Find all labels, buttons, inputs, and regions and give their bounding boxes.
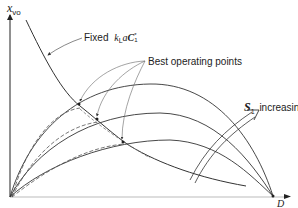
best-operating-points-label: Best operating points bbox=[148, 57, 242, 67]
fixed-leader-line bbox=[48, 38, 82, 55]
fixed-C: C bbox=[128, 32, 135, 43]
fixed-prefix: Fixed bbox=[84, 32, 108, 43]
s-text: increasing bbox=[259, 102, 298, 113]
dashed-mid bbox=[12, 122, 98, 197]
s-main: S bbox=[244, 100, 251, 114]
s-increasing-arrow-line-b bbox=[195, 117, 255, 183]
s-increasing-label: S1 increasing bbox=[244, 101, 298, 113]
s-sub: 1 bbox=[251, 108, 255, 115]
x-axis-arrow-icon bbox=[284, 194, 291, 199]
arc-low bbox=[10, 140, 273, 197]
best-point-2 bbox=[96, 118, 99, 121]
y-axis-label-sub: vo bbox=[12, 8, 20, 17]
x-axis-label: D bbox=[277, 199, 284, 208]
y-axis-label: xvo bbox=[7, 2, 21, 14]
fixed-L: L bbox=[119, 37, 123, 44]
fixed-sup-sub: *1 bbox=[134, 33, 137, 43]
fixed-sub: 1 bbox=[134, 37, 137, 43]
arc-high bbox=[10, 84, 273, 197]
best-leader-2 bbox=[97, 61, 145, 116]
best-point-3 bbox=[122, 141, 125, 144]
dashed-tail bbox=[80, 109, 150, 158]
fixed-kla-curve bbox=[26, 20, 246, 186]
fixed-kla-label: Fixed kLaC*1 bbox=[84, 33, 138, 43]
dashed-low bbox=[12, 144, 124, 197]
washout-point bbox=[272, 195, 275, 198]
best-point-1 bbox=[78, 103, 81, 106]
